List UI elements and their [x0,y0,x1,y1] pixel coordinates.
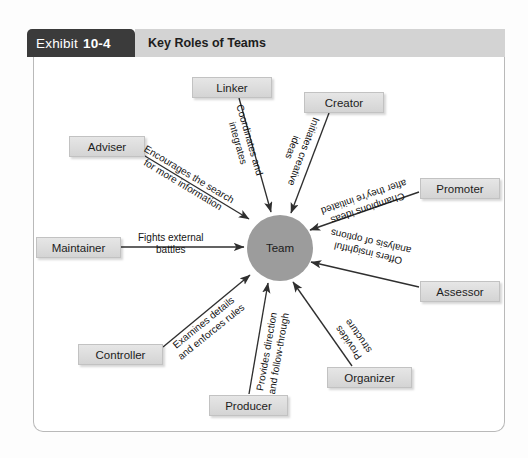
role-label-adviser: Adviser [88,141,126,153]
role-box-creator[interactable]: Creator [304,92,384,113]
role-label-promoter: Promoter [436,183,483,195]
role-box-promoter[interactable]: Promoter [420,178,500,199]
role-box-adviser[interactable]: Adviser [69,136,145,157]
role-label-maintainer: Maintainer [52,242,106,254]
exhibit-word-label: Exhibit [36,36,78,51]
team-center-label: Team [266,242,294,254]
exhibit-title-bar: Key Roles of Teams [135,29,505,57]
role-label-assessor: Assessor [436,286,483,298]
role-box-maintainer[interactable]: Maintainer [36,237,121,258]
role-label-producer: Producer [225,400,272,412]
role-box-assessor[interactable]: Assessor [420,281,500,302]
team-center-node: Team [247,215,313,281]
role-box-controller[interactable]: Controller [78,344,163,365]
exhibit-header: Exhibit 10-4 Key Roles of Teams [27,29,505,57]
role-label-creator: Creator [325,97,363,109]
page-title: Key Roles of Teams [148,36,266,50]
role-box-producer[interactable]: Producer [209,395,288,416]
role-label-controller: Controller [96,349,146,361]
role-label-linker: Linker [216,82,247,94]
role-box-organizer[interactable]: Organizer [327,367,412,388]
exhibit-number-tab: Exhibit 10-4 [27,29,135,57]
exhibit-number-label: 10-4 [83,36,111,51]
role-label-organizer: Organizer [344,372,395,384]
exhibit-page: Exhibit 10-4 Key Roles of Teams [0,0,528,458]
role-box-linker[interactable]: Linker [192,77,272,98]
